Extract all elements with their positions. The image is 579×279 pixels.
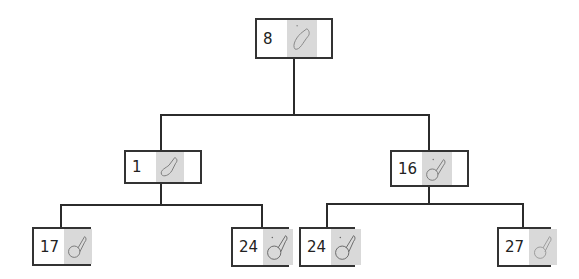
- mouse-icon: [331, 229, 361, 265]
- tree-node-leaf-d: 27: [497, 227, 551, 267]
- mouse-icon: [64, 229, 92, 264]
- node-value: 16: [392, 160, 422, 178]
- edge-left-to-a: [60, 204, 62, 227]
- node-value: 17: [34, 238, 64, 256]
- mouse-icon: [263, 229, 293, 265]
- tree-node-leaf-a: 17: [32, 227, 91, 266]
- node-value: 24: [233, 238, 263, 256]
- tree-node-left: 1: [124, 150, 202, 184]
- edge-root-to-right: [428, 114, 430, 150]
- edge-left-to-b: [261, 204, 263, 227]
- edge-left-bar: [60, 204, 263, 206]
- tree-node-root: 8: [255, 18, 333, 59]
- tree-node-leaf-b: 24: [231, 227, 289, 267]
- edge-right-bar: [326, 203, 524, 205]
- edge-right-trunk: [428, 186, 430, 204]
- edge-root-bar: [160, 114, 430, 116]
- tree-node-leaf-c: 24: [299, 227, 355, 267]
- edge-root-to-left: [160, 114, 162, 150]
- tree-node-right: 16: [390, 150, 469, 187]
- mouse-icon: [287, 20, 317, 57]
- mouse-icon: [529, 229, 557, 265]
- edge-left-trunk: [160, 183, 162, 205]
- node-value: 8: [257, 30, 287, 48]
- edge-root-trunk: [293, 58, 295, 115]
- edge-right-to-d: [522, 203, 524, 227]
- mouse-icon: [422, 152, 452, 185]
- edge-right-to-c: [326, 203, 328, 227]
- node-value: 1: [126, 158, 156, 176]
- node-value: 27: [499, 238, 529, 256]
- node-value: 24: [301, 238, 331, 256]
- mouse-icon: [156, 152, 184, 182]
